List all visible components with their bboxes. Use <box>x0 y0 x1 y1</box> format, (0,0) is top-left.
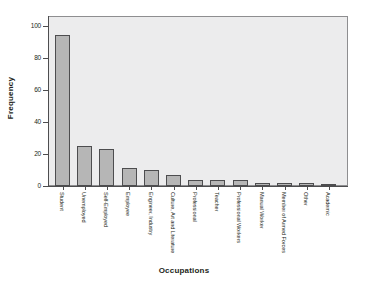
y-axis-tick <box>43 58 48 59</box>
x-axis-tick <box>196 186 197 190</box>
y-axis-tick <box>43 154 48 155</box>
y-axis-tick-label: 80 <box>34 54 41 61</box>
x-axis-tick <box>329 186 330 190</box>
x-axis-tick <box>107 186 108 190</box>
x-axis-tick <box>262 186 263 190</box>
x-axis-tick-label: Academic <box>325 192 331 216</box>
x-axis-tick-label: Employee <box>125 192 131 216</box>
y-axis-tick-label: 100 <box>31 22 41 29</box>
x-axis-tick-label: Engineer, Industry <box>148 192 154 235</box>
x-axis-tick-label: Teacher <box>214 192 220 211</box>
y-axis-title: Frequency <box>6 58 15 138</box>
x-axis-tick <box>129 186 130 190</box>
x-axis-tick-label: Unemployed <box>81 192 87 222</box>
y-axis-tick <box>43 186 48 187</box>
x-axis-tick-label: Professional Workers <box>236 192 242 243</box>
x-axis-tick-label: Other <box>303 192 309 206</box>
bar <box>166 175 181 186</box>
x-axis-tick <box>307 186 308 190</box>
x-axis-tick <box>63 186 64 190</box>
y-axis-tick-label: 0 <box>38 182 41 189</box>
x-axis-tick-label: Manual Worker <box>259 192 265 229</box>
bar <box>144 170 159 186</box>
bar <box>122 168 137 186</box>
y-axis-tick-label: 40 <box>34 118 41 125</box>
y-axis-tick <box>43 90 48 91</box>
x-axis-tick-label: Student <box>59 192 65 211</box>
bar <box>55 35 70 186</box>
x-axis-tick <box>218 186 219 190</box>
x-axis-tick-label: Self-Employed <box>103 192 109 227</box>
y-axis-tick-label: 20 <box>34 150 41 157</box>
x-axis-tick <box>151 186 152 190</box>
x-axis-tick <box>85 186 86 190</box>
x-axis-title: Occupations <box>0 266 368 275</box>
y-axis-line <box>48 16 49 187</box>
bar-chart-figure: 020406080100 StudentUnemployedSelf-Emplo… <box>0 0 368 289</box>
y-axis-tick <box>43 122 48 123</box>
x-axis-tick-label: Professional <box>192 192 198 222</box>
x-axis-tick <box>240 186 241 190</box>
x-axis-tick-label: Member of Armed Forces <box>281 192 287 253</box>
x-axis-tick-label: Culture, Art and Literature <box>170 192 176 253</box>
bar <box>99 149 114 186</box>
x-axis-line <box>48 186 348 187</box>
y-axis-tick-label: 60 <box>34 86 41 93</box>
bar <box>77 146 92 186</box>
y-axis-tick <box>43 26 48 27</box>
x-axis-tick <box>285 186 286 190</box>
bars-container <box>49 17 347 186</box>
x-axis-tick <box>174 186 175 190</box>
